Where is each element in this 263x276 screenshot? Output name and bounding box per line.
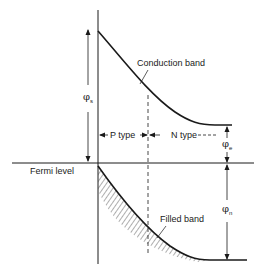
phi-s-symbol: φs <box>83 92 93 104</box>
phi-e-subscript: e <box>229 145 232 151</box>
filled-band-leader <box>157 226 166 238</box>
filled-band-label: Filled band <box>160 215 204 224</box>
phi-s-subscript: s <box>90 98 93 104</box>
conduction-band-curve <box>98 31 232 125</box>
fermi-level-label: Fermi level <box>30 167 74 176</box>
n-type-label: N type <box>171 131 197 140</box>
phi-n-subscript: n <box>229 210 232 216</box>
conduction-band-label: Conduction band <box>137 59 205 68</box>
phi-s-glyph: φ <box>83 91 90 102</box>
phi-n-glyph: φ <box>222 203 229 214</box>
phi-n-symbol: φn <box>222 204 232 216</box>
phi-e-glyph: φ <box>222 138 229 149</box>
p-type-label: P type <box>110 131 135 140</box>
phi-e-symbol: φe <box>222 139 232 151</box>
conduction-band-leader <box>140 70 148 84</box>
